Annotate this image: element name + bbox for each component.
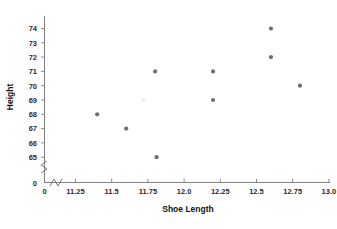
data-point [154,155,158,159]
data-point [298,84,302,88]
x-tick-label-130: 13.0 [322,187,337,196]
y-tick-label-65: 65 [29,153,37,162]
x-tick-label-120: 12.0 [177,187,192,196]
x-tick-label-1125: 11.25 [66,187,84,196]
x-tick-label-1225: 12.25 [211,187,230,196]
x-tick-label-125: 12.5 [249,187,264,196]
y-tick-label-72: 72 [29,53,37,62]
data-point [211,69,215,73]
x-tick-label-115: 11.5 [105,187,119,196]
x-tick-label-1175: 11.75 [139,187,157,196]
y-tick-label-73: 73 [29,39,37,48]
y-tick-label-67: 67 [29,124,37,133]
y-tick-label-71: 71 [29,67,37,76]
x-axis-title: Shoe Length [162,204,213,214]
data-point [153,69,157,73]
y-tick-label-0: 0 [33,179,37,188]
y-tick-label-70: 70 [29,82,37,91]
y-tick-label-74: 74 [29,24,38,33]
x-tick-label-1275: 12.75 [283,187,302,196]
scatter-chart: 74 73 72 71 70 69 68 67 66 65 0 0 11.25 … [0,0,337,229]
data-point [269,55,273,59]
data-point [95,112,99,116]
data-point [211,98,215,102]
data-point [269,26,273,30]
chart-canvas: 74 73 72 71 70 69 68 67 66 65 0 0 11.25 … [0,0,337,229]
y-tick-label-68: 68 [29,110,37,119]
y-axis-title: Height [5,84,15,111]
y-tick-label-69: 69 [29,96,37,105]
data-point [141,98,145,102]
data-point [124,127,128,131]
y-tick-label-66: 66 [29,139,37,148]
x-tick-label-0: 0 [42,187,46,196]
